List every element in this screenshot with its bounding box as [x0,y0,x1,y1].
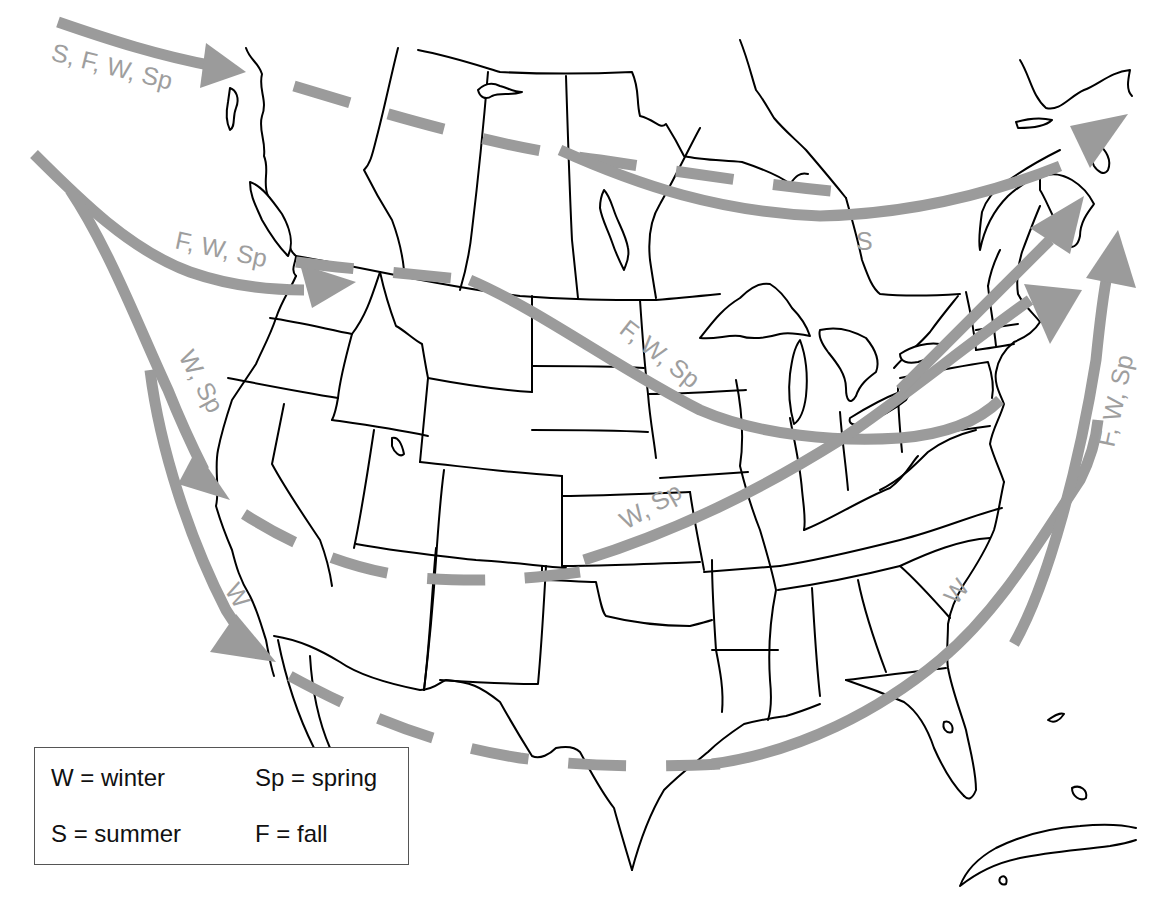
wy-west [420,378,428,462]
mt-wy-border [428,378,532,392]
arrowhead-atlantic [1086,230,1136,288]
sask-manitoba-border [566,76,578,298]
alberta-sask-border [460,72,488,290]
ms-al-border [812,588,820,696]
maine-border [988,250,1000,286]
baja-west [278,640,314,748]
lake-michigan [789,340,807,424]
baja-east [310,656,330,748]
in-oh-border [840,412,848,490]
lake-superior [700,284,810,339]
tx-coast [632,704,820,870]
tx-east-border [712,560,723,712]
fl-gulf-coast [846,680,964,796]
id-west-border [332,334,352,420]
track-northeast [900,240,1050,390]
legend-summer: S = summer [51,820,181,848]
bahamas-island-a [1072,787,1086,800]
tn-south-border [778,566,900,590]
ia-mo-border [660,472,748,478]
isla-juventud [999,876,1006,884]
bc-alberta-border [364,48,404,270]
nc-sc-border [900,538,990,566]
track-sw-dashed [244,514,580,580]
wa-id-border [352,272,380,334]
season-legend: W = winter Sp = spring S = summer F = fa… [34,747,409,865]
legend-winter: W = winter [51,764,165,792]
ca-nv-border [272,404,332,586]
ut-west-nv [354,430,374,548]
wy-co-ut-line [420,462,562,476]
label-w-se: W [938,573,975,609]
island-haida [227,88,238,130]
anticosti-island [1016,119,1052,128]
great-slave-lake [478,84,522,98]
label-wsp-ca: W, Sp [174,345,230,417]
mo-ar-border [704,566,780,572]
bahamas-island-b [1048,713,1064,721]
lake-okeechobee [943,722,952,733]
mo-west [690,492,704,570]
az-ut-line [356,544,566,568]
lake-huron [819,328,877,401]
wa-or-border [270,318,352,334]
arrowhead-california [178,450,230,500]
sd-ne-border [532,430,648,432]
quebec-labrador-coast [1020,60,1132,109]
al-ga-border [858,580,886,672]
great-salt-lake [392,438,404,456]
legend-fall: F = fall [255,820,328,848]
ky-north [804,456,918,530]
legend-spring: Sp = spring [255,764,377,792]
cuba [960,825,1136,886]
id-mt-border [380,272,428,378]
id-ut-nv-line [332,420,428,436]
ky-tn-border [780,508,1002,566]
label-fwsp-plains: F, W, Sp [615,314,706,393]
manitoba-ontario-border [649,128,700,298]
ks-ok-border [562,562,700,566]
arrowhead-alberta [200,43,246,88]
label-sfwsp: S, F, W, Sp [49,38,176,95]
az-nm-border [424,548,436,690]
track-labels: S, F, W, Sp F, W, Sp F, W, Sp S W, Sp W … [49,38,1138,613]
or-ca-nv-border [228,378,338,398]
lake-winnipeg [600,190,629,270]
hudson-bay-coast [740,40,846,198]
label-s-canada: S [856,227,873,255]
